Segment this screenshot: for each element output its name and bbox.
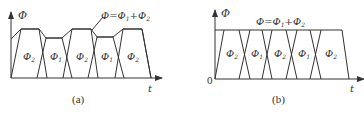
panel-a: Φ t Φ2 Φ1 Φ2 Φ1 Φ2 Φ=Φ1+Φ2 (a) — [11, 9, 162, 106]
y-axis-label-b: Φ — [221, 7, 230, 20]
region-label-b-1: Φ2 — [226, 48, 238, 60]
y-axis-label-a: Φ — [18, 9, 27, 22]
region-label-a-2: Φ1 — [50, 51, 62, 63]
x-axis-label-b: t — [350, 83, 355, 94]
sum-label-a: Φ=Φ1+Φ2 — [101, 10, 150, 22]
region-label-b-5: Φ2 — [325, 48, 337, 60]
panel-b: Φ t 0 Φ2 Φ1 Φ2 Φ1 Φ2 Φ=Φ1+Φ2 (b) — [207, 7, 364, 106]
caption-b: (b) — [272, 93, 285, 106]
flux-diagram: Φ t Φ2 Φ1 Φ2 Φ1 Φ2 Φ=Φ1+Φ2 (a) Φ t 0 — [0, 0, 364, 115]
region-label-b-3: Φ2 — [274, 48, 286, 60]
region-label-a-1: Φ2 — [23, 51, 35, 63]
origin-label-b: 0 — [207, 74, 213, 86]
x-axis-label-a: t — [148, 83, 153, 94]
region-label-b-2: Φ1 — [251, 48, 263, 60]
region-label-a-5: Φ2 — [127, 51, 139, 63]
region-label-a-3: Φ2 — [76, 51, 88, 63]
sum-label-b: Φ=Φ1+Φ2 — [256, 16, 305, 28]
region-label-a-4: Φ1 — [101, 51, 113, 63]
region-label-b-4: Φ1 — [298, 48, 310, 60]
caption-a: (a) — [72, 93, 85, 106]
